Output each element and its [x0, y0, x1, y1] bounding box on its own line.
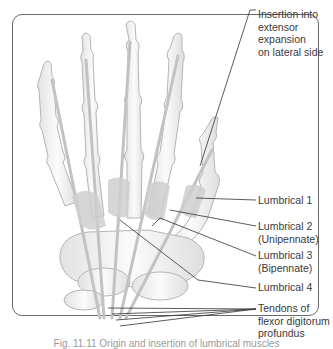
label-lumbrical-2: Lumbrical 2 (Unipennate): [258, 220, 319, 245]
label-fdp-tendons: Tendons of flexor digitorum profundus: [258, 302, 330, 340]
label-lumbrical-4: Lumbrical 4: [258, 281, 312, 294]
label-lumbrical-3: Lumbrical 3 (Bipennate): [258, 249, 312, 274]
label-lumbrical-1: Lumbrical 1: [258, 194, 312, 207]
figure-caption: Fig. 11.11 Origin and insertion of lumbr…: [0, 338, 333, 349]
label-insertion: Insertion into extensor expansion on lat…: [258, 8, 323, 58]
